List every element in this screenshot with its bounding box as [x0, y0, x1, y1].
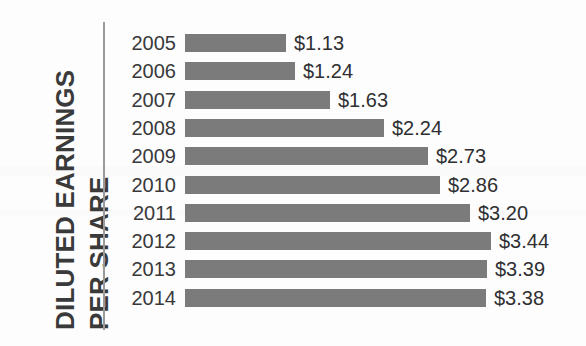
bar-value-label: $2.24 — [392, 117, 442, 140]
year-label: 2006 — [108, 60, 176, 83]
y-axis-title: DILUTED EARNINGS PER SHARE — [0, 0, 100, 346]
bar-value-label: $1.63 — [338, 89, 388, 112]
year-label: 2010 — [108, 174, 176, 197]
bar-row: 2011$3.20 — [108, 204, 586, 222]
bar — [185, 34, 286, 52]
y-axis-title-line-1: DILUTED EARNINGS — [50, 70, 81, 330]
bar-value-label: $3.20 — [478, 202, 528, 225]
bar-value-label: $3.44 — [499, 230, 549, 253]
bar-value-label: $3.38 — [494, 287, 544, 310]
bar — [185, 147, 428, 165]
bar-row: 2012$3.44 — [108, 232, 586, 250]
diluted-eps-bar-chart: DILUTED EARNINGS PER SHARE 2005$1.132006… — [0, 0, 586, 346]
year-label: 2012 — [108, 230, 176, 253]
bar — [185, 91, 330, 109]
y-axis-line — [103, 22, 105, 330]
year-label: 2013 — [108, 258, 176, 281]
bar-value-label: $1.13 — [294, 32, 344, 55]
bar-row: 2014$3.38 — [108, 289, 586, 307]
bar-row: 2009$2.73 — [108, 147, 586, 165]
bar — [185, 232, 491, 250]
bar-value-label: $2.86 — [448, 174, 498, 197]
bar-row: 2006$1.24 — [108, 62, 586, 80]
bar — [185, 260, 487, 278]
plot-area: 2005$1.132006$1.242007$1.632008$2.242009… — [108, 34, 586, 326]
year-label: 2007 — [108, 89, 176, 112]
bar-value-label: $1.24 — [303, 60, 353, 83]
bar — [185, 176, 440, 194]
bar — [185, 62, 295, 80]
bar-row: 2010$2.86 — [108, 176, 586, 194]
year-label: 2011 — [108, 202, 176, 225]
bar-row: 2013$3.39 — [108, 260, 586, 278]
bar-row: 2008$2.24 — [108, 119, 586, 137]
year-label: 2014 — [108, 287, 176, 310]
year-label: 2005 — [108, 32, 176, 55]
bar-row: 2005$1.13 — [108, 34, 586, 52]
bar — [185, 289, 486, 307]
year-label: 2008 — [108, 117, 176, 140]
bar-value-label: $3.39 — [495, 258, 545, 281]
year-label: 2009 — [108, 145, 176, 168]
bar-row: 2007$1.63 — [108, 91, 586, 109]
bar — [185, 119, 384, 137]
bar-value-label: $2.73 — [436, 145, 486, 168]
bar — [185, 204, 470, 222]
